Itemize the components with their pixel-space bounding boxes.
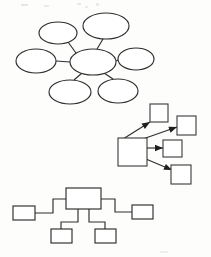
- flow-target-box-upper-right: [177, 116, 196, 135]
- edge-hub-to-bottom-right: [104, 73, 113, 79]
- edge-hub-to-bottom-left: [74, 73, 82, 80]
- flow-target-box-middle-right: [163, 140, 182, 157]
- hub-node: [70, 49, 116, 75]
- arrow-source-to-middle-right-head: [155, 145, 163, 151]
- arrow-flow-diagram: [118, 104, 196, 184]
- connector-root-to-bottom-right: [89, 209, 105, 229]
- flow-target-box-top: [150, 104, 168, 122]
- diagram-canvas: [0, 0, 211, 257]
- tree-child-box-far-left: [13, 206, 35, 220]
- connector-root-to-bottom-left: [61, 209, 78, 229]
- connector-root-to-far-right: [101, 199, 132, 212]
- tree-child-box-bottom-left: [51, 229, 72, 243]
- spoke-node-bottom-right: [98, 79, 138, 103]
- connector-root-to-far-left: [35, 199, 66, 213]
- flow-target-box-lower-right: [171, 165, 191, 184]
- arrow-source-to-upper-right-head: [168, 127, 177, 133]
- spoke-node-top-right: [83, 13, 129, 39]
- edge-hub-to-top-left: [68, 42, 76, 53]
- spoke-node-top-left: [39, 22, 77, 44]
- radial-hub-diagram: [16, 13, 154, 104]
- diagram-page: [0, 0, 211, 257]
- spoke-node-left: [16, 49, 56, 73]
- spoke-node-right: [118, 48, 154, 70]
- tree-child-box-far-right: [132, 205, 153, 219]
- spoke-node-bottom-left: [49, 80, 91, 104]
- arrow-source-to-top-head: [142, 122, 150, 129]
- flow-source-box: [118, 138, 147, 166]
- edge-hub-to-left: [56, 61, 70, 62]
- tree-root-box: [66, 188, 101, 209]
- hierarchy-tree-diagram: [13, 188, 153, 243]
- edge-hub-to-top-right: [97, 39, 103, 49]
- tree-child-box-bottom-right: [95, 229, 116, 243]
